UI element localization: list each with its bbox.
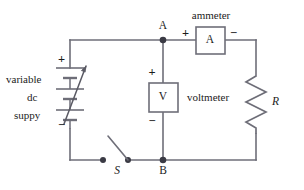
voltmeter-minus-sign: − xyxy=(148,115,155,128)
junction-node-a xyxy=(160,37,167,44)
voltmeter-caption: voltmeter xyxy=(187,92,229,103)
node-label-a: A xyxy=(159,20,167,32)
supply-label-line1: variable xyxy=(6,74,41,85)
variability-arrow-icon xyxy=(64,66,86,124)
ammeter-symbol: A xyxy=(206,34,214,46)
ammeter-plus-sign: + xyxy=(182,27,189,40)
switch-symbol[interactable] xyxy=(100,136,131,163)
circuit-schematic-svg xyxy=(0,0,304,190)
resistor-label: R xyxy=(272,96,279,108)
supply-minus-sign: − xyxy=(58,119,65,132)
supply-plus-sign: + xyxy=(58,53,65,66)
voltmeter-symbol: V xyxy=(159,91,167,103)
resistor-zigzag xyxy=(246,76,266,134)
switch-terminal-left xyxy=(100,157,106,163)
supply-label-line3: suppy xyxy=(14,110,40,121)
switch-blade xyxy=(108,136,128,160)
ammeter-minus-sign: − xyxy=(230,27,237,40)
node-label-b: B xyxy=(159,165,167,177)
switch-label: S xyxy=(114,165,120,177)
voltmeter-plus-sign: + xyxy=(148,66,155,79)
ammeter-caption: ammeter xyxy=(192,10,230,21)
junction-node-b xyxy=(160,157,167,164)
circuit-diagram: variable dc suppy + − A B ammeter A + − … xyxy=(0,0,304,190)
supply-label-line2: dc xyxy=(27,92,37,103)
